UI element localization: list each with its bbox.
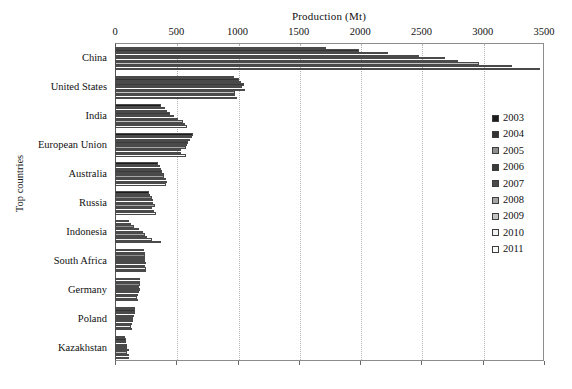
country-bar-group — [115, 47, 544, 71]
y-tick-label-united-states: United States — [51, 81, 107, 92]
legend-swatch-icon — [492, 164, 499, 171]
legend-item-2007[interactable]: 2007 — [492, 176, 554, 192]
legend-item-2009[interactable]: 2009 — [492, 208, 554, 224]
country-bar-group — [115, 278, 544, 302]
legend-swatch-icon — [492, 180, 499, 187]
bar-united-states-2011 — [115, 97, 237, 99]
y-tick-label-poland: Poland — [78, 312, 107, 323]
bar-indonesia-2011 — [115, 241, 161, 243]
country-bar-group — [115, 220, 544, 244]
country-bar-group — [115, 76, 544, 100]
bars-layer — [115, 43, 544, 361]
bar-russia-2011 — [115, 212, 156, 214]
x-tick-label: 500 — [168, 26, 184, 37]
legend-swatch-icon — [492, 213, 499, 220]
legend-item-2003[interactable]: 2003 — [492, 110, 554, 126]
country-bar-group — [115, 104, 544, 128]
x-tick-mark — [238, 361, 239, 365]
legend-swatch-icon — [492, 197, 499, 204]
legend-item-2005[interactable]: 2005 — [492, 143, 554, 159]
x-tick-mark — [115, 361, 116, 365]
x-tick-mark — [299, 361, 300, 365]
legend-swatch-icon — [492, 246, 499, 253]
x-tick-mark — [360, 361, 361, 365]
y-axis-title: Top countries — [14, 129, 25, 239]
y-tick-label-germany: Germany — [68, 283, 107, 294]
bar-india-2011 — [115, 125, 187, 127]
country-bar-group — [115, 133, 544, 157]
y-tick-label-china: China — [82, 52, 107, 63]
bar-australia-2011 — [115, 183, 166, 185]
x-tick-mark — [421, 361, 422, 365]
y-tick-label-indonesia: Indonesia — [66, 225, 107, 236]
country-bar-group — [115, 307, 544, 331]
legend-swatch-icon — [492, 115, 499, 122]
x-tick-mark — [176, 361, 177, 365]
bar-kazakhstan-2011 — [115, 357, 129, 359]
legend-swatch-icon — [492, 147, 499, 154]
x-tick-mark — [544, 361, 545, 365]
legend-label: 2006 — [503, 162, 524, 173]
legend-swatch-icon — [492, 229, 499, 236]
legend-item-2011[interactable]: 2011 — [492, 241, 554, 257]
country-bar-group — [115, 162, 544, 186]
legend-label: 2007 — [503, 179, 524, 190]
legend-swatch-icon — [492, 131, 499, 138]
y-tick-label-india: India — [85, 110, 107, 121]
bar-south-africa-2011 — [115, 270, 146, 272]
chart-title: Production (Mt) — [115, 10, 543, 22]
legend-item-2008[interactable]: 2008 — [492, 192, 554, 208]
bar-european-union-2011 — [115, 154, 186, 156]
legend-label: 2004 — [503, 129, 524, 140]
legend-item-2004[interactable]: 2004 — [492, 126, 554, 142]
y-tick-label-russia: Russia — [79, 197, 107, 208]
legend-label: 2009 — [503, 211, 524, 222]
legend-label: 2008 — [503, 195, 524, 206]
country-bar-group — [115, 336, 544, 360]
y-tick-label-australia: Australia — [69, 168, 108, 179]
legend-item-2006[interactable]: 2006 — [492, 159, 554, 175]
bar-china-2011 — [115, 68, 540, 70]
x-tick-label: 1000 — [227, 26, 248, 37]
x-tick-label: 3000 — [472, 26, 493, 37]
x-tick-label: 3500 — [534, 26, 555, 37]
legend-label: 2010 — [503, 228, 524, 239]
legend-label: 2003 — [503, 113, 524, 124]
x-axis-tick-marks — [115, 361, 544, 366]
legend-label: 2005 — [503, 146, 524, 157]
bar-poland-2011 — [115, 328, 132, 330]
production-bar-chart-figure: Production (Mt) 050010001500200025003000… — [0, 0, 572, 389]
legend: 200320042005200620072008200920102011 — [492, 110, 554, 258]
bar-germany-2011 — [115, 299, 138, 301]
x-tick-label: 2000 — [350, 26, 371, 37]
y-tick-label-south-africa: South Africa — [54, 254, 107, 265]
country-bar-group — [115, 249, 544, 273]
x-tick-label: 2500 — [411, 26, 432, 37]
x-tick-mark — [483, 361, 484, 365]
y-tick-label-kazakhstan: Kazakhstan — [58, 341, 107, 352]
y-tick-label-european-union: European Union — [38, 139, 107, 150]
legend-label: 2011 — [503, 244, 524, 255]
x-tick-label: 1500 — [288, 26, 309, 37]
x-tick-label: 0 — [112, 26, 117, 37]
x-axis-tick-labels: 0500100015002000250030003500 — [0, 26, 572, 40]
country-bar-group — [115, 191, 544, 215]
legend-item-2010[interactable]: 2010 — [492, 225, 554, 241]
